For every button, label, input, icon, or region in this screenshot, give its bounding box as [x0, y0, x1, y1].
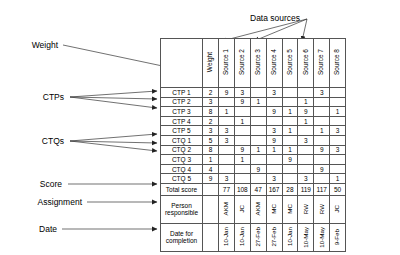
cell: 1 [219, 107, 235, 117]
header-source-2: Source 2 [234, 39, 250, 88]
date-cell: 27-Feb [266, 223, 282, 251]
total-cell: 119 [298, 183, 314, 195]
row-weight: 2 [203, 116, 219, 126]
cell [282, 88, 298, 98]
cell [234, 126, 250, 136]
cell: 3 [219, 174, 235, 184]
cell [250, 155, 266, 165]
header-source-3: Source 3 [250, 39, 266, 88]
row-weight: 1 [203, 155, 219, 165]
cell [282, 97, 298, 107]
table-row: CTP 2 3 9 1 1 [161, 97, 346, 107]
date-cell: 10-Jan [234, 223, 250, 251]
table-row: CTQ 4 4 9 9 [161, 164, 346, 174]
cell: 3 [266, 88, 282, 98]
total-cell: 108 [234, 183, 250, 195]
cell [330, 135, 346, 145]
cell [298, 164, 314, 174]
header-source-7: Source 7 [314, 39, 330, 88]
cell [330, 88, 346, 98]
cell: 1 [234, 116, 250, 126]
cell [234, 164, 250, 174]
row-weight: 5 [203, 135, 219, 145]
cell [314, 155, 330, 165]
person-cell: MC [266, 195, 282, 223]
cell [250, 88, 266, 98]
annotation-assignment: Assignment [0, 198, 82, 207]
person-cell: JC [330, 195, 346, 223]
date-cell: 10-Jan [219, 223, 235, 251]
cell: 1 [250, 145, 266, 155]
cell: 9 [266, 135, 282, 145]
qfd-matrix-table: Weight Source 1 Source 2 Source 3 Source… [160, 38, 346, 252]
cell [298, 145, 314, 155]
cell [330, 155, 346, 165]
cell [234, 107, 250, 117]
total-cell: 47 [250, 183, 266, 195]
cell: 1 [330, 174, 346, 184]
cell [219, 116, 235, 126]
cell: 3 [330, 145, 346, 155]
row-label: CTP 2 [161, 97, 203, 107]
row-label: CTQ 4 [161, 164, 203, 174]
annotation-ctqs: CTQs [0, 137, 64, 146]
cell: 1 [234, 155, 250, 165]
table-row: CTP 5 3 3 3 1 1 3 [161, 126, 346, 136]
date-cell: 10-May [314, 223, 330, 251]
cell [250, 126, 266, 136]
person-cell: AKM [250, 195, 266, 223]
person-responsible-row: Person responsible AKM JC AKM MC MC RW R… [161, 195, 346, 223]
row-weight [203, 183, 219, 195]
row-weight: 3 [203, 126, 219, 136]
cell [314, 97, 330, 107]
row-label: Person responsible [161, 195, 203, 223]
cell [219, 97, 235, 107]
total-score-row: Total score 77 108 47 167 28 119 117 50 [161, 183, 346, 195]
row-weight: 8 [203, 107, 219, 117]
row-weight [203, 223, 219, 251]
cell: 3 [330, 126, 346, 136]
cell: 9 [234, 97, 250, 107]
header-weight: Weight [203, 39, 219, 88]
cell: 9 [282, 155, 298, 165]
matrix-header: Weight Source 1 Source 2 Source 3 Source… [161, 39, 346, 88]
row-weight: 3 [203, 97, 219, 107]
cell: 3 [314, 88, 330, 98]
table-row: CTP 4 2 1 1 [161, 116, 346, 126]
person-cell: AKM [219, 195, 235, 223]
total-cell: 117 [314, 183, 330, 195]
total-cell: 77 [219, 183, 235, 195]
row-weight: 9 [203, 174, 219, 184]
cell: 1 [266, 145, 282, 155]
cell: 1 [282, 126, 298, 136]
cell [266, 97, 282, 107]
total-cell: 50 [330, 183, 346, 195]
cell: 3 [219, 126, 235, 136]
annotation-data-sources: Data sources [250, 14, 300, 23]
cell [219, 164, 235, 174]
row-label: CTQ 2 [161, 145, 203, 155]
table-row: CTQ 1 5 3 9 3 [161, 135, 346, 145]
row-label: Date for completion [161, 223, 203, 251]
total-cell: 167 [266, 183, 282, 195]
cell: 3 [219, 135, 235, 145]
cell [330, 116, 346, 126]
row-label: CTQ 5 [161, 174, 203, 184]
cell [266, 164, 282, 174]
annotation-score: Score [0, 180, 62, 189]
person-cell: MC [282, 195, 298, 223]
table-row: CTQ 5 9 3 3 3 1 [161, 174, 346, 184]
cell [330, 97, 346, 107]
cell: 9 [219, 88, 235, 98]
cell: 9 [314, 164, 330, 174]
header-source-6: Source 6 [298, 39, 314, 88]
cell [282, 135, 298, 145]
row-label: CTQ 3 [161, 155, 203, 165]
cell [298, 155, 314, 165]
cell [282, 174, 298, 184]
cell: 3 [298, 135, 314, 145]
cell [330, 164, 346, 174]
cell: 1 [298, 97, 314, 107]
row-weight: 4 [203, 164, 219, 174]
cell [314, 107, 330, 117]
